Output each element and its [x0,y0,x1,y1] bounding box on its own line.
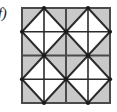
vertex-dot [86,53,91,58]
vertex-dot [42,101,46,105]
vertex-dot [108,30,112,34]
geometric-tiling-diagram [0,0,117,112]
vertex-dot [20,77,24,81]
vertex-dot [42,53,47,58]
figure-panel: f) [0,0,117,112]
vertex-dot [64,77,69,82]
vertex-dot [108,77,112,81]
vertex-dot [86,101,90,105]
vertex-dot [42,6,46,10]
vertex-dot [86,6,90,10]
vertex-dot [64,29,69,34]
vertex-dot [20,30,24,34]
